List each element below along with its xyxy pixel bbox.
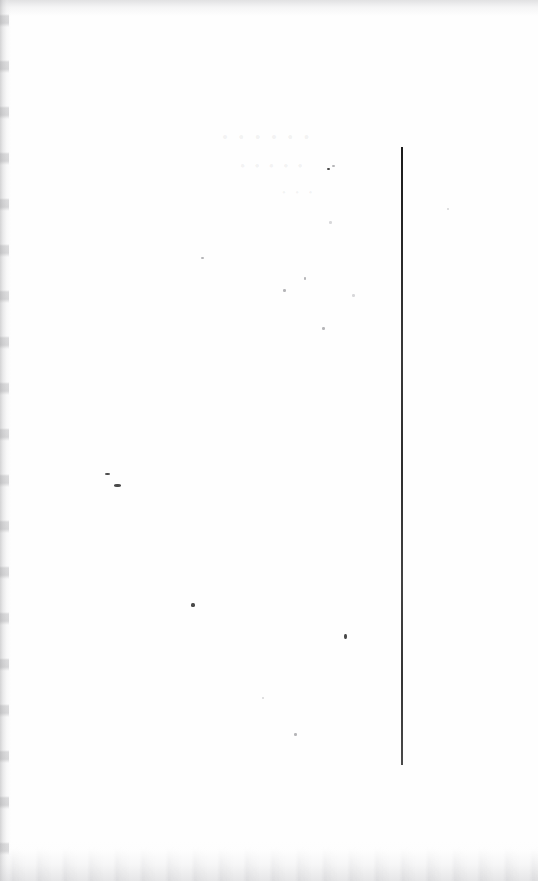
show-through-line-1: • • • • • • xyxy=(222,128,313,148)
paper-speck xyxy=(322,327,325,330)
top-edge-shadow xyxy=(0,0,538,16)
bottom-edge-mottle xyxy=(0,847,538,881)
show-through-line-3: • • • xyxy=(282,186,316,198)
paper-speck xyxy=(114,484,121,487)
paper-speck xyxy=(191,603,195,607)
show-through-line-2: • • • • • xyxy=(240,158,306,175)
paper-speck xyxy=(294,733,297,736)
paper-speck xyxy=(105,473,110,475)
paper-speck xyxy=(344,634,347,639)
scanned-page: • • • • • • • • • • • • • • xyxy=(0,0,538,881)
paper-speck xyxy=(304,277,306,280)
left-gutter-streaks xyxy=(0,0,9,881)
paper-speck xyxy=(447,208,449,210)
paper-speck xyxy=(352,294,355,297)
vertical-rule xyxy=(401,147,403,765)
paper-speck xyxy=(201,257,204,259)
paper-speck xyxy=(329,221,332,224)
paper-speck xyxy=(327,168,330,170)
paper-speck xyxy=(283,289,286,292)
paper-speck xyxy=(332,165,335,167)
paper-speck xyxy=(262,697,264,699)
